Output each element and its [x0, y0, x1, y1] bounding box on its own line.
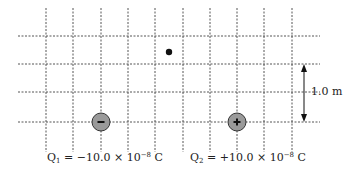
arrow-up-icon [301, 64, 307, 72]
q1-value: = −10.0 × 10 [61, 151, 141, 164]
q1-exponent: −8 [141, 151, 151, 159]
point-marker [166, 49, 172, 55]
scale-label: 1.0 m [311, 85, 342, 98]
q2-label: Q2 = +10.0 × 10−8 C [190, 151, 306, 165]
arrow-down-icon [301, 114, 307, 122]
q2-name: Q [190, 151, 199, 164]
q1-label: Q1 = −10.0 × 10−8 C [47, 151, 163, 165]
q1-unit: C [151, 151, 163, 164]
q2-exponent: −8 [284, 151, 294, 159]
q2-value: = +10.0 × 10 [204, 151, 284, 164]
q2-unit: C [294, 151, 306, 164]
q1-name: Q [47, 151, 56, 164]
